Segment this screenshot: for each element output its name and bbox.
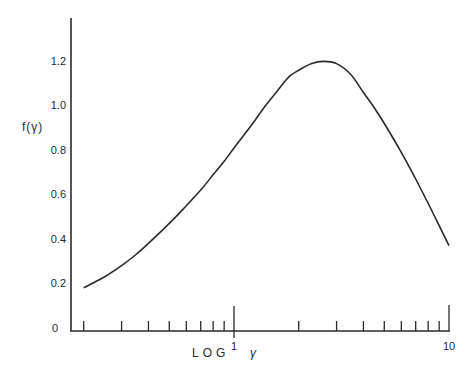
y-tick-label-1.2: 1.2: [51, 55, 66, 67]
y-tick-label-0: 0: [52, 322, 58, 334]
data-series-f-gamma: [84, 61, 449, 287]
y-tick-label-0.4: 0.4: [51, 233, 66, 245]
x-axis-title-log: LOG: [192, 346, 229, 360]
y-tick-label-0.2: 0.2: [51, 277, 66, 289]
x-tick-label-10: 10: [443, 340, 455, 352]
y-tick-label-0.8: 0.8: [51, 144, 66, 156]
x-tick-label-1: 1: [231, 340, 237, 352]
x-axis-title-gamma: γ: [250, 346, 260, 360]
y-tick-label-1.0: 1.0: [51, 99, 66, 111]
line-chart: 0 0.2 0.4 0.6 0.8 1.0 1.2 f(γ) 1 10 LOG …: [0, 0, 474, 379]
y-tick-label-0.6: 0.6: [51, 188, 66, 200]
y-axis-title: f(γ): [22, 120, 43, 134]
x-axis-ticks: [84, 305, 449, 338]
